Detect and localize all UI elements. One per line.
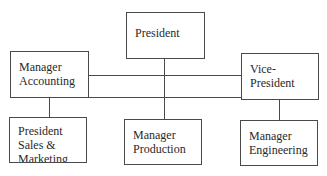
connector-president-to-production	[164, 58, 165, 119]
connector-accounting-to-sales	[49, 97, 50, 117]
node-president-sales-marketing: President Sales & Marketing	[9, 117, 87, 163]
node-label: Marketing	[18, 152, 86, 163]
node-label: President	[250, 76, 318, 90]
node-label: Manager	[249, 129, 317, 143]
node-label: Sales &	[18, 138, 86, 152]
node-manager-engineering: Manager Engineering	[240, 120, 318, 166]
node-president: President	[126, 12, 205, 59]
node-label: Engineering	[249, 143, 317, 157]
node-label: President	[135, 26, 204, 40]
connector-accounting-to-vice-president-upper	[88, 75, 241, 76]
connector-lower-horizontal	[88, 97, 241, 98]
node-label: Production	[133, 142, 201, 156]
node-label: President	[18, 124, 86, 138]
node-label: Manager	[19, 60, 88, 74]
node-vice-president: Vice- President	[241, 53, 319, 100]
org-chart: President Manager Accounting Vice- Presi…	[0, 0, 327, 176]
node-manager-accounting: Manager Accounting	[10, 51, 89, 98]
node-label: Accounting	[19, 74, 88, 88]
node-manager-production: Manager Production	[124, 119, 202, 165]
node-label: Vice-	[250, 62, 318, 76]
connector-vice-president-to-engineering	[279, 99, 280, 120]
node-label: Manager	[133, 128, 201, 142]
